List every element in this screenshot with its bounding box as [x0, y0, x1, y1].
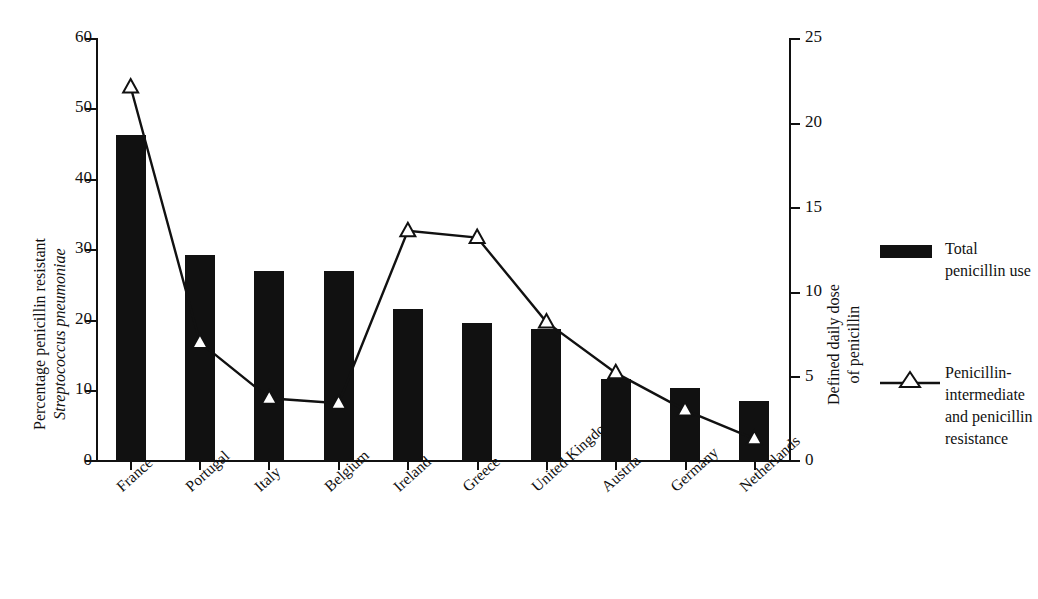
y-tick-label-left-60: 60 — [52, 27, 92, 47]
legend-label-line: Penicillin- intermediate and penicillin … — [945, 362, 1033, 450]
bar-netherlands — [739, 401, 769, 461]
y-tick-label-right-25: 25 — [805, 27, 845, 47]
y-tick-right — [789, 292, 800, 294]
y-tick-right — [789, 123, 800, 125]
y-axis-left-title-line2: Streptococcus pneumoniae — [50, 238, 70, 430]
y-tick-label-right-10: 10 — [805, 281, 845, 301]
resistance-line — [131, 87, 755, 439]
y-axis-right-title-line2: of penicillin — [844, 284, 864, 405]
y-tick-label-right-5: 5 — [805, 366, 845, 386]
y-axis-left-title-line1: Percentage penicillin resistant — [30, 238, 50, 430]
bar-belgium — [324, 271, 354, 461]
y-tick-right — [789, 207, 800, 209]
bar-italy — [254, 271, 284, 461]
data-marker-united-kingdom — [539, 314, 554, 328]
bar-ireland — [393, 309, 423, 461]
y-tick-label-left-20: 20 — [52, 309, 92, 329]
bar-greece — [462, 323, 492, 460]
y-axis-right-title: Defined daily dose of penicillin — [824, 284, 864, 405]
y-tick-label-left-40: 40 — [52, 168, 92, 188]
y-tick-left — [85, 390, 96, 392]
y-axis-left-title: Percentage penicillin resistant Streptoc… — [30, 238, 70, 430]
legend-label-bar: Total penicillin use — [945, 238, 1031, 282]
y-tick-label-right-20: 20 — [805, 112, 845, 132]
y-tick-right — [789, 376, 800, 378]
data-marker-ireland — [400, 223, 415, 237]
data-marker-austria — [608, 365, 623, 379]
y-tick-left — [85, 249, 96, 251]
y-tick-left — [85, 38, 96, 40]
y-tick-left — [85, 320, 96, 322]
y-axis-right-title-line1: Defined daily dose — [824, 284, 844, 405]
data-marker-france — [123, 79, 138, 93]
legend-bar-swatch — [880, 245, 932, 258]
legend-line-swatch — [878, 369, 948, 393]
y-axis-left-line — [96, 38, 98, 462]
data-marker-greece — [470, 230, 485, 244]
y-tick-label-right-0: 0 — [805, 450, 845, 470]
y-tick-left — [85, 108, 96, 110]
y-tick-right — [789, 38, 800, 40]
y-axis-right-line — [789, 38, 791, 462]
y-tick-label-left-30: 30 — [52, 238, 92, 258]
bar-portugal — [185, 255, 215, 461]
bar-france — [116, 135, 146, 461]
y-tick-left — [85, 179, 96, 181]
chart-root: Percentage penicillin resistant Streptoc… — [0, 0, 1038, 599]
bar-germany — [670, 388, 700, 461]
line-series-layer — [0, 0, 1038, 599]
bar-united-kingdom — [531, 329, 561, 461]
y-tick-label-right-15: 15 — [805, 197, 845, 217]
y-tick-label-left-10: 10 — [52, 379, 92, 399]
x-tick-label-italy: Italy — [251, 463, 284, 495]
y-tick-label-left-50: 50 — [52, 97, 92, 117]
